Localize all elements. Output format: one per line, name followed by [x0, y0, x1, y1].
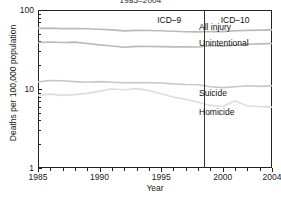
x-axis-label: Year: [38, 183, 272, 193]
series-line-homicide: [38, 89, 272, 107]
series-label-unintentional: Unintentional: [199, 38, 249, 48]
series-label-all-injury: All injury: [199, 22, 231, 32]
x-tick-minor: [260, 168, 261, 171]
x-tick-minor: [63, 168, 64, 171]
chart-title: 1985–2004: [0, 0, 281, 5]
x-tick-minor: [112, 168, 113, 171]
annotation-icd9: ICD–9: [157, 15, 181, 25]
series-line-suicide: [38, 81, 272, 88]
x-tick-label-2000: 2000: [213, 172, 232, 182]
x-tick-minor: [198, 168, 199, 171]
x-tick-minor: [235, 168, 236, 171]
x-tick-minor: [124, 168, 125, 171]
x-tick-label-2004: 2004: [263, 172, 281, 182]
x-tick-minor: [173, 168, 174, 171]
chart-container: 1985–2004 100 10 1 Deaths per 100,000 po…: [0, 0, 281, 197]
series-label-suicide: Suicide: [199, 88, 227, 98]
x-tick-minor: [75, 168, 76, 171]
x-tick-minor: [50, 168, 51, 171]
x-tick-label-1985: 1985: [29, 172, 48, 182]
x-tick-minor: [149, 168, 150, 171]
x-tick-minor: [87, 168, 88, 171]
x-tick-label-1990: 1990: [90, 172, 109, 182]
x-tick-label-1995: 1995: [152, 172, 171, 182]
x-tick-minor: [247, 168, 248, 171]
series-line-all-injury: [38, 28, 272, 32]
x-tick-minor: [137, 168, 138, 171]
series-label-homicide: Homicide: [199, 107, 234, 117]
y-axis-label: Deaths per 100,000 population: [8, 8, 18, 158]
series-lines: [38, 10, 272, 168]
y-axis-tick-labels: 100 10 1: [0, 0, 38, 197]
x-tick-minor: [210, 168, 211, 171]
x-tick-minor: [186, 168, 187, 171]
